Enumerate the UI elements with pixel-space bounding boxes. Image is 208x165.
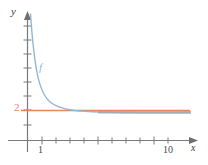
figure-canvas: y x f 2 1 10 bbox=[0, 0, 208, 165]
x-tick-label-1: 1 bbox=[38, 145, 43, 155]
x-axis-label: x bbox=[191, 143, 195, 153]
function-plot bbox=[0, 0, 208, 165]
curve-f bbox=[31, 14, 191, 113]
x-tick-label-10: 10 bbox=[163, 145, 173, 155]
y-axis-label: y bbox=[11, 6, 16, 17]
y-value-label-2: 2 bbox=[14, 102, 20, 113]
curve-label-f: f bbox=[39, 62, 42, 73]
